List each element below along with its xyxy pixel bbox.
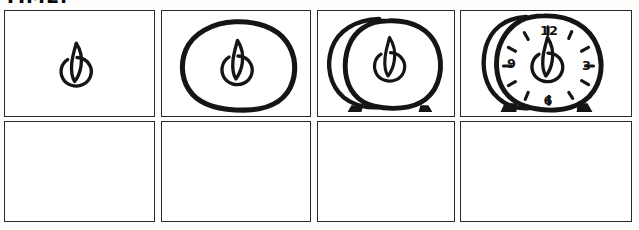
panel-3-artwork — [318, 11, 454, 116]
panel-1-artwork — [5, 11, 154, 116]
panel-7-empty[interactable] — [317, 121, 455, 222]
clock-numeral-12: 12 — [540, 23, 558, 38]
outer-blob-shape — [182, 22, 294, 110]
page-title-clipped: TIME. — [4, 0, 144, 7]
clock-numeral-9: 9 — [507, 57, 516, 72]
clock-numeral-6: 6 — [544, 93, 553, 108]
panel-3-double-blob-with-feet[interactable] — [317, 10, 455, 117]
flame-circle-icon — [374, 37, 404, 81]
panel-5-empty[interactable] — [4, 121, 155, 222]
panel-4-alarm-clock[interactable]: 12 3 6 9 — [460, 10, 632, 117]
panel-1-flame-circle[interactable] — [4, 10, 155, 117]
panel-2-blob-around-flame[interactable] — [161, 10, 311, 117]
page-title-text: TIME. — [4, 0, 144, 6]
panel-8-empty[interactable] — [460, 121, 632, 222]
flame-circle-icon — [61, 43, 91, 86]
clock-numeral-3: 3 — [582, 58, 591, 73]
flame-circle-icon — [532, 37, 563, 81]
panel-4-artwork: 12 3 6 9 — [461, 11, 631, 116]
panel-6-empty[interactable] — [161, 121, 311, 222]
flame-circle-icon — [222, 40, 252, 84]
panel-2-artwork — [162, 11, 310, 116]
storyboard-sheet: TIME. — [0, 0, 639, 230]
